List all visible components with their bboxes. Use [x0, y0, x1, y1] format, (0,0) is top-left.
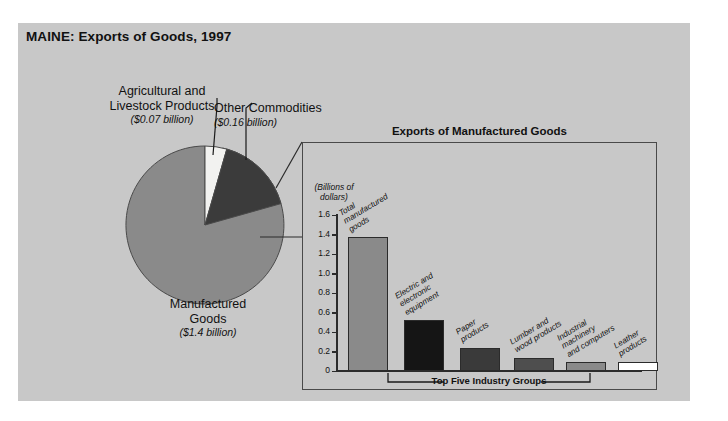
y-tick-label: 0: [325, 365, 330, 375]
y-tick-mark: [332, 351, 336, 353]
pie-label-manufactured-goods: Manufactured Goods ($1.4 billion): [118, 297, 298, 338]
y-tick-mark: [332, 312, 336, 314]
industry-group-bracket: Top Five Industry Groups: [336, 372, 642, 394]
y-tick-label: 0.8: [318, 287, 330, 297]
y-axis-unit-line1: (Billions of: [306, 182, 362, 192]
y-tick-label: 0.6: [318, 307, 330, 317]
y-tick-mark: [332, 293, 336, 295]
bar-label: Lumber andwood products: [508, 312, 563, 356]
bracket-label: Top Five Industry Groups: [336, 375, 642, 386]
bar-label: Industrialmachineryand computers: [555, 307, 616, 359]
y-tick-mark: [332, 273, 336, 275]
pie-label-agricultural-line1: Agricultural and: [72, 84, 252, 99]
y-tick-label: 0.2: [318, 346, 330, 356]
y-tick-mark: [332, 254, 336, 256]
bar-label: Paperproducts: [454, 312, 491, 344]
page-title: MAINE: Exports of Goods, 1997: [26, 29, 231, 44]
pie-label-other-line1: Other Commodities: [214, 101, 394, 116]
y-axis-ticks: 1.61.41.21.00.80.60.40.20: [292, 215, 336, 371]
y-tick-mark: [332, 332, 336, 334]
inset-chart-title: Exports of Manufactured Goods: [302, 125, 657, 137]
y-tick-label: 1.0: [318, 268, 330, 278]
pie-label-other-commodities: Other Commodities ($0.16 billion): [214, 101, 394, 128]
y-tick-label: 1.2: [318, 248, 330, 258]
pie-label-manufactured-line1: Manufactured: [118, 297, 298, 312]
pie-label-manufactured-line2: Goods: [118, 312, 298, 327]
y-tick-label: 1.6: [318, 209, 330, 219]
y-tick-mark: [332, 234, 336, 236]
bar-label: Electric andelectronicequipment: [393, 271, 444, 317]
y-tick-label: 0.4: [318, 326, 330, 336]
pie-label-manufactured-value: ($1.4 billion): [118, 326, 298, 338]
y-tick-label: 1.4: [318, 229, 330, 239]
y-tick-mark: [332, 215, 336, 217]
bar-labels-layer: TotalmanufacturedgoodsElectric andelectr…: [338, 215, 642, 371]
